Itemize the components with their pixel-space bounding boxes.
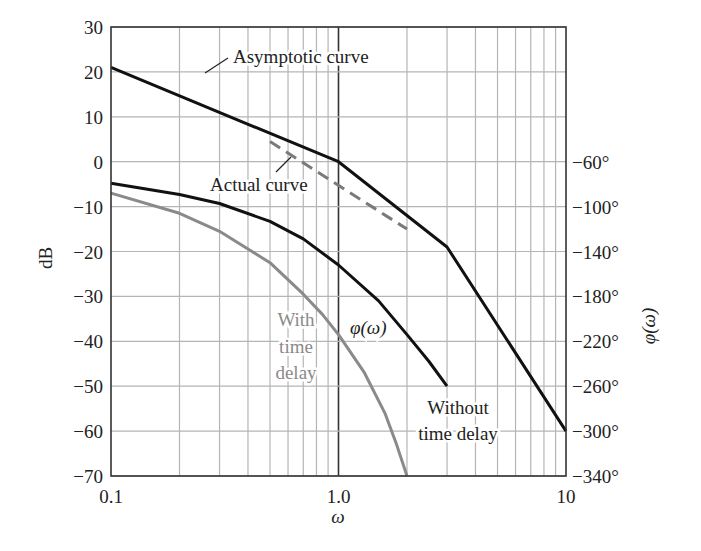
y-right-tick-label: −100° <box>572 197 619 218</box>
y-right-tick-label: −220° <box>572 331 619 352</box>
y-tick-label: −60 <box>73 421 103 442</box>
bode-plot-chart: 3020100−10−20−30−40−50−60−700.11.010−60°… <box>0 0 701 551</box>
y-tick-label: −20 <box>73 242 103 263</box>
y-right-tick-label: −60° <box>572 152 609 173</box>
annotation-leader <box>205 58 228 73</box>
annotation-label: Actual curve <box>210 174 308 195</box>
annotation-label: delay <box>275 362 317 383</box>
y-tick-label: 20 <box>84 62 103 83</box>
annotation-label: time <box>279 336 313 357</box>
y-tick-label: −30 <box>73 286 103 307</box>
y-tick-label: −40 <box>73 331 103 352</box>
annotation-label: time delay <box>418 423 498 444</box>
axis-ticks: 3020100−10−20−30−40−50−60−700.11.010−60°… <box>73 17 619 507</box>
y-right-tick-label: −300° <box>572 421 619 442</box>
annotation-label: Without <box>427 397 489 418</box>
y-right-tick-label: −260° <box>572 376 619 397</box>
y-tick-label: 10 <box>84 107 103 128</box>
y-right-tick-label: −180° <box>572 286 619 307</box>
annotation-label: Asymptotic curve <box>233 46 369 67</box>
y-tick-label: −10 <box>73 197 103 218</box>
y-tick-label: −70 <box>73 466 103 487</box>
annotation-leader <box>276 157 291 172</box>
x-axis-label: ω <box>331 506 344 527</box>
y-right-tick-label: −140° <box>572 242 619 263</box>
y-axis-label: dB <box>35 247 56 269</box>
y-right-tick-label: −340° <box>572 466 619 487</box>
y-tick-label: 30 <box>84 17 103 38</box>
x-tick-label: 1.0 <box>327 486 351 507</box>
y-tick-label: 0 <box>94 152 104 173</box>
bode-plot-figure: 3020100−10−20−30−40−50−60−700.11.010−60°… <box>0 0 701 551</box>
y-tick-label: −50 <box>73 376 103 397</box>
annotation-label: φ(ω) <box>350 317 387 339</box>
y-axis-right-label: φ(ω) <box>638 308 660 345</box>
annotation-label: With <box>277 309 315 330</box>
x-tick-label: 10 <box>557 486 576 507</box>
annotations: Asymptotic curveAsymptotic curveActual c… <box>205 46 498 444</box>
x-tick-label: 0.1 <box>99 486 123 507</box>
